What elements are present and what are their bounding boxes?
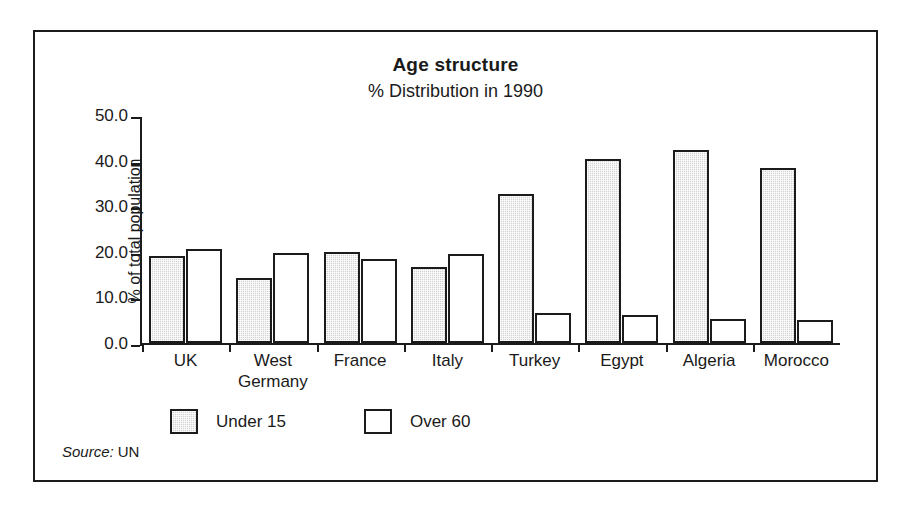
bar-under-15 [585, 159, 621, 343]
x-axis-label: France [317, 350, 404, 392]
bar-over-60 [797, 320, 833, 343]
y-tick-label: 50.0 [95, 106, 128, 126]
bar-over-60 [622, 315, 658, 343]
title-block: Age structure % Distribution in 1990 [35, 54, 876, 103]
bar-over-60 [273, 253, 309, 343]
bar-under-15 [149, 256, 185, 343]
x-axis-label: Egypt [578, 350, 665, 392]
chart-title: Age structure [35, 54, 876, 76]
legend-label: Over 60 [410, 412, 470, 432]
bar-group [404, 116, 491, 343]
legend-swatch-icon [364, 409, 392, 434]
x-axis-label: UK [142, 350, 229, 392]
bar-over-60 [361, 259, 397, 343]
bar-group [229, 116, 316, 343]
plot-area: % of total population 50.0 40.0 30.0 20.… [140, 117, 840, 345]
bar-group [317, 116, 404, 343]
x-axis-label: Turkey [491, 350, 578, 392]
source-note: Source:UN [62, 443, 139, 460]
y-tick-label: 10.0 [95, 288, 128, 308]
source-label: Source: [62, 443, 114, 460]
chart-figure: Age structure % Distribution in 1990 % o… [33, 30, 878, 482]
bar-under-15 [760, 168, 796, 343]
x-axis-line [140, 343, 840, 345]
y-tick-label: 30.0 [95, 197, 128, 217]
legend-swatch-icon [170, 409, 198, 434]
bar-group [491, 116, 578, 343]
bar-over-60 [710, 319, 746, 343]
legend-label: Under 15 [216, 412, 286, 432]
bar-under-15 [411, 267, 447, 343]
bar-group [666, 116, 753, 343]
chart-subtitle: % Distribution in 1990 [35, 79, 876, 103]
x-axis-label: Algeria [666, 350, 753, 392]
x-axis-labels: UKWestGermanyFranceItalyTurkeyEgyptAlger… [142, 350, 840, 392]
legend-item-under-15: Under 15 [170, 409, 286, 434]
chart-legend: Under 15 Over 60 [170, 409, 548, 434]
bar-over-60 [448, 254, 484, 343]
x-axis-label: Morocco [753, 350, 840, 392]
y-tick-label: 0.0 [104, 334, 128, 354]
bar-over-60 [535, 313, 571, 343]
y-tick-label: 40.0 [95, 152, 128, 172]
y-tick-label: 20.0 [95, 243, 128, 263]
legend-item-over-60: Over 60 [364, 409, 470, 434]
bar-group [142, 116, 229, 343]
x-axis-label: WestGermany [229, 350, 316, 392]
x-axis-label: Italy [404, 350, 491, 392]
bar-group [753, 116, 840, 343]
bar-under-15 [673, 150, 709, 343]
bar-groups [142, 116, 840, 343]
bar-under-15 [236, 278, 272, 343]
bar-under-15 [324, 252, 360, 343]
bar-group [578, 116, 665, 343]
bar-under-15 [498, 194, 534, 343]
source-value: UN [118, 443, 140, 460]
bar-over-60 [186, 249, 222, 343]
